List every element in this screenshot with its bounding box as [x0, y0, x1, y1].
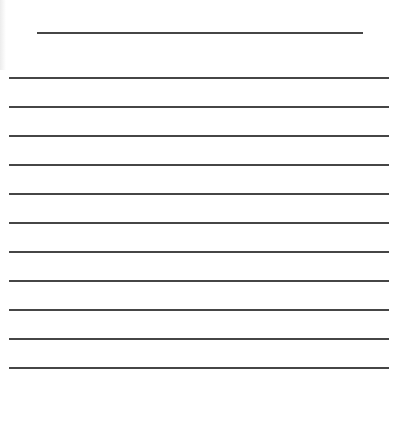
writing-line	[9, 280, 389, 282]
writing-line	[9, 193, 389, 195]
writing-line	[9, 135, 389, 137]
writing-line	[9, 77, 389, 79]
writing-line	[9, 251, 389, 253]
scan-edge-shading	[0, 0, 6, 70]
writing-line	[9, 367, 389, 369]
writing-line	[9, 106, 389, 108]
writing-line	[9, 164, 389, 166]
title-writing-line	[37, 32, 363, 34]
writing-line	[9, 338, 389, 340]
writing-line	[9, 222, 389, 224]
writing-line	[9, 309, 389, 311]
lined-paper-page	[0, 0, 413, 436]
